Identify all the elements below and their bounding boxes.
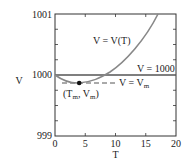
y-tick-1000: 1000 <box>32 69 52 80</box>
x-tick-15: 15 <box>141 138 151 149</box>
minimum-point-marker <box>77 81 82 86</box>
v1000-label: V = 1000 <box>137 63 175 74</box>
y-axis-label: V <box>15 75 23 86</box>
x-tick-0: 0 <box>53 138 58 149</box>
x-axis-label: T <box>112 149 118 160</box>
x-tick-10: 10 <box>111 138 121 149</box>
y-tick-999: 999 <box>37 130 52 141</box>
vm-label: V = Vm <box>119 77 150 90</box>
minimum-point-label: (Tm, Vm) <box>63 88 99 101</box>
x-tick-5: 5 <box>83 138 88 149</box>
vt-curve-label: V = V(T) <box>93 35 131 47</box>
chart: 1001 1000 999 0 5 10 15 20 T V V = V(T) … <box>0 0 189 166</box>
y-tick-1001: 1001 <box>32 9 52 20</box>
x-tick-20: 20 <box>171 138 181 149</box>
